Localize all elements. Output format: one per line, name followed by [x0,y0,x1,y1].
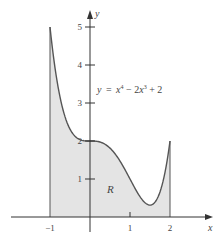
y-tick-label: 2 [78,136,83,146]
y-tick-label: 1 [78,174,83,184]
x-tick-label: −1 [45,223,55,233]
region-label: R [106,183,114,195]
x-axis-arrow-icon [205,214,213,220]
y-tick-label: 4 [78,60,83,70]
chart: x y −11212345 y = x4 − 2x3 + 2 R [0,0,216,244]
y-tick-label: 3 [78,98,83,108]
y-axis-label: y [94,8,100,19]
x-tick-label: 1 [128,223,133,233]
y-tick-label: 5 [78,22,83,32]
y-axis-arrow-icon [87,10,93,19]
x-tick-label: 2 [168,223,173,233]
equation-label: y = x4 − 2x3 + 2 [96,84,162,95]
x-axis-label: x [207,222,213,233]
